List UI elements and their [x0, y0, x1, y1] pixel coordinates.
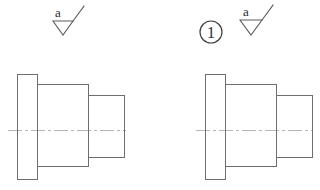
view-left[interactable] — [8, 74, 126, 179]
surface-finish-triangle-icon — [240, 20, 262, 35]
part-step-body — [225, 84, 276, 166]
part-step-boss — [88, 95, 124, 157]
view-right[interactable] — [196, 74, 313, 179]
surface-finish-extension-line-icon — [73, 6, 84, 21]
finish-symbol-left[interactable]: a — [53, 5, 84, 35]
surface-finish-triangle-icon — [53, 21, 73, 35]
part-step-body — [37, 84, 88, 166]
surface-finish-extension-line-icon — [262, 5, 273, 20]
finish-symbol-right-label: a — [243, 4, 249, 19]
item-balloon-label: 1 — [207, 24, 215, 41]
part-step-flange — [17, 74, 37, 179]
item-balloon[interactable]: 1 — [200, 21, 222, 43]
finish-symbol-right[interactable]: a — [240, 4, 273, 35]
part-step-flange — [205, 74, 225, 179]
technical-drawing-canvas: a 1 a — [0, 0, 320, 190]
finish-symbol-left-label: a — [55, 5, 61, 20]
part-step-boss — [276, 95, 312, 157]
